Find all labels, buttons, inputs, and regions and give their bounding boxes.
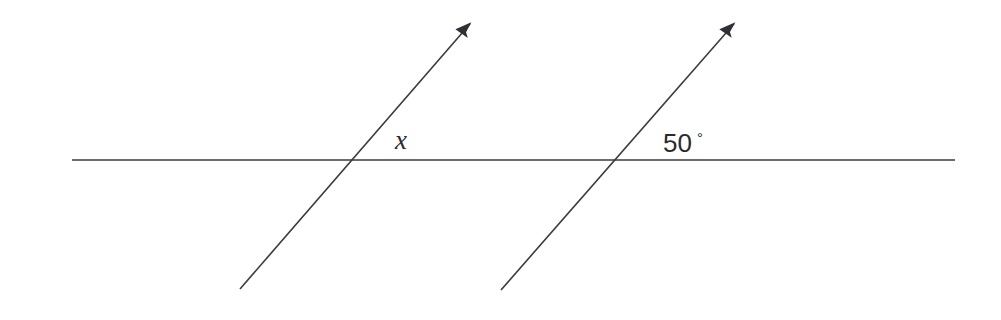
figure-svg: x 50 ° — [0, 0, 1001, 320]
angle-label-50-value: 50 — [663, 128, 692, 158]
degree-symbol-icon: ° — [697, 129, 703, 146]
left-ray-line — [240, 24, 470, 289]
geometry-diagram-canvas: x 50 ° — [0, 0, 1001, 320]
right-ray-line — [501, 24, 734, 290]
angle-label-x: x — [394, 125, 407, 155]
